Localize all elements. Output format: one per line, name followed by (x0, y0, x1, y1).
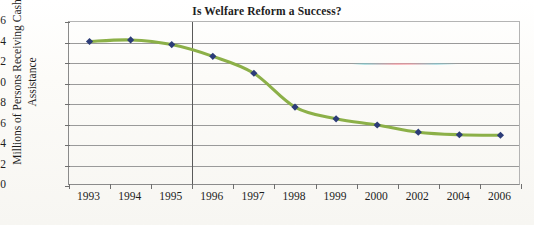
scan-color-fringe-artifact (352, 63, 457, 65)
x-axis-label-2000: 2000 (353, 190, 399, 202)
y-axis-title-line-2: Assistance (25, 0, 40, 172)
y-axis-label-2: 2 (0, 159, 6, 171)
x-tick-7 (357, 184, 358, 189)
y-axis-label-10: 10 (0, 77, 6, 89)
x-tick-8 (398, 184, 399, 189)
x-tick-3 (192, 184, 193, 189)
series-markers (86, 36, 504, 139)
x-axis-label-1994: 1994 (107, 190, 153, 202)
y-tick-8 (65, 104, 70, 105)
y-tick-6 (65, 125, 70, 126)
x-axis-label-1997: 1997 (230, 190, 276, 202)
data-point-2002 (415, 129, 422, 136)
gridline-4 (69, 145, 519, 146)
x-tick-5 (274, 184, 275, 189)
data-point-1996 (209, 53, 216, 60)
y-axis-label-4: 4 (0, 138, 6, 150)
x-tick-2 (151, 184, 152, 189)
y-axis-label-8: 8 (0, 97, 6, 109)
x-tick-0 (69, 184, 70, 189)
chart-screenshot: Is Welfare Reform a Success? Millions of… (0, 0, 534, 225)
x-tick-10 (480, 184, 481, 189)
x-tick-4 (233, 184, 234, 189)
gridline-10 (69, 84, 519, 85)
x-tick-1 (110, 184, 111, 189)
y-axis-title: Millions of Persons Receiving Cash Assis… (10, 0, 46, 172)
x-axis-label-1993: 1993 (66, 190, 112, 202)
data-point-1997 (250, 70, 257, 77)
gridline-14 (69, 43, 519, 44)
x-tick-6 (316, 184, 317, 189)
x-tick-9 (439, 184, 440, 189)
y-axis-label-16: 16 (0, 15, 6, 27)
data-point-2004 (456, 131, 463, 138)
y-axis-label-6: 6 (0, 118, 6, 130)
y-axis-title-line-1: Millions of Persons Receiving Cash (11, 0, 23, 165)
x-axis-label-2002: 2002 (394, 190, 440, 202)
gridline-2 (69, 166, 519, 167)
y-tick-2 (65, 166, 70, 167)
gridline-12 (69, 63, 519, 64)
gridline-8 (69, 104, 519, 105)
gridline-6 (69, 125, 519, 126)
x-axis-label-1996: 1996 (189, 190, 235, 202)
x-axis-label-2004: 2004 (435, 190, 481, 202)
x-axis-label-2006: 2006 (476, 190, 522, 202)
reform-year-divider-line (192, 22, 193, 184)
x-axis-label-1998: 1998 (271, 190, 317, 202)
y-tick-4 (65, 145, 70, 146)
y-tick-16 (65, 22, 70, 23)
y-tick-12 (65, 63, 70, 64)
x-axis-label-1995: 1995 (148, 190, 194, 202)
data-point-1993 (86, 38, 93, 45)
chart-title: Is Welfare Reform a Success? (0, 5, 534, 17)
series-line (90, 40, 501, 135)
data-point-2006 (497, 132, 504, 139)
y-axis-label-14: 14 (0, 36, 6, 48)
x-tick-11 (521, 184, 522, 189)
plot-area (68, 21, 520, 185)
y-tick-10 (65, 84, 70, 85)
x-axis-label-1999: 1999 (312, 190, 358, 202)
y-axis-label-0: 0 (0, 179, 6, 191)
y-axis-label-12: 12 (0, 56, 6, 68)
y-tick-14 (65, 43, 70, 44)
data-point-1999 (332, 115, 339, 122)
